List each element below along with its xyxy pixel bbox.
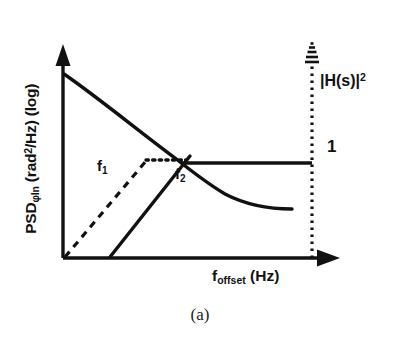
y-axis-units-prefix: (rad	[22, 154, 39, 187]
y-axis-units-suffix: /Hz) (log)	[22, 84, 39, 148]
y-axis-label-main: PSD	[22, 203, 39, 234]
transfer-function-label: |H(s)|2	[320, 72, 366, 89]
y-axis-label: PSDφIn (rad2/Hz) (log)	[23, 59, 41, 259]
unity-level-label: 1	[327, 138, 336, 155]
f2-label-subscript: 2	[180, 173, 186, 184]
figure-panel: PSDφIn (rad2/Hz) (log) foffset (Hz) |H(s…	[0, 0, 400, 350]
x-axis-label: foffset (Hz)	[212, 268, 279, 286]
transfer-function-label-main: |H(s)|	[320, 72, 360, 89]
plot-canvas	[0, 0, 400, 350]
f1-label-subscript: 1	[102, 165, 108, 176]
corner-frequency-f2-label: f2	[175, 166, 186, 184]
x-axis	[63, 250, 340, 267]
y-axis-label-subscript: φIn	[29, 186, 41, 202]
y-axis-units-superscript: 2	[22, 148, 34, 154]
figure-caption: (a)	[0, 305, 400, 325]
x-axis-label-subscript: offset	[217, 274, 246, 286]
corner-frequency-f1-label: f1	[97, 158, 108, 176]
transfer-function-reference-line	[305, 44, 319, 259]
x-axis-units: (Hz)	[246, 267, 280, 284]
input-noise-curve	[64, 74, 292, 209]
transfer-function-label-superscript: 2	[360, 71, 366, 83]
